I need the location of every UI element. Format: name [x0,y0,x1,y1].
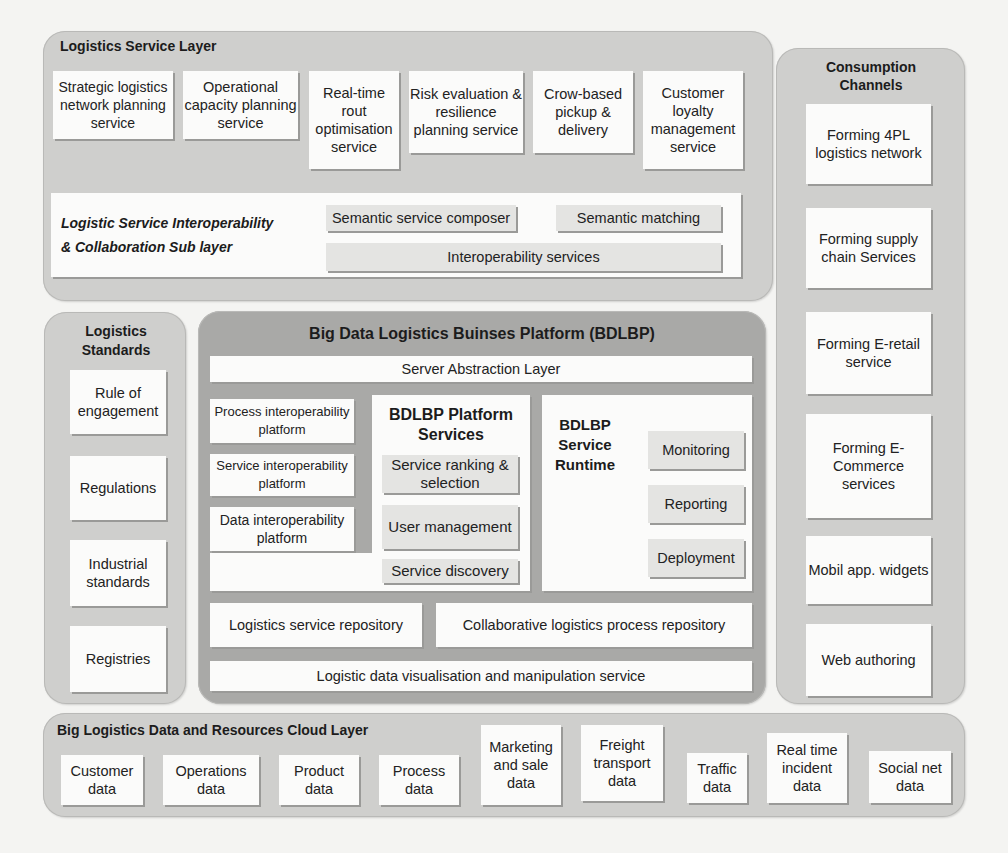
standard-regulations: Regulations [70,456,166,520]
data-social-net: Social net data [869,751,951,803]
service-layer-title: Logistics Service Layer [60,38,216,54]
interoperability-services: Interoperability services [326,243,721,271]
semantic-matching: Semantic matching [556,205,721,231]
data-product: Product data [279,755,359,805]
channel-supply-chain: Forming supply chain Services [806,208,931,288]
user-management: User management [382,505,518,549]
cloud-layer-title: Big Logistics Data and Resources Cloud L… [57,722,368,738]
logistics-service-layer: Logistics Service Layer Strategic logist… [43,31,773,301]
service-operational-capacity-planning: Operational capacity planning service [183,71,298,139]
consumption-channels-title: Consumption Channels [806,58,936,94]
bdlbp-platform-services: BDLBP Platform Services Service ranking … [210,395,530,591]
service-runtime-title: BDLBP Service Runtime [550,415,620,475]
runtime-reporting: Reporting [648,485,744,523]
service-strategic-network-planning: Strategic logistics network planning ser… [53,71,173,139]
service-discovery: Service discovery [382,559,518,583]
standard-registries: Registries [70,626,166,692]
server-abstraction-layer: Server Abstraction Layer [210,356,752,382]
service-ranking-selection: Service ranking & selection [382,455,518,493]
cloud-data-layer: Big Logistics Data and Resources Cloud L… [43,713,965,817]
consumption-channels-layer: Consumption Channels Forming 4PL logisti… [776,48,965,704]
service-customer-loyalty: Customer loyalty management service [643,71,743,169]
data-process: Process data [379,755,459,805]
data-customer: Customer data [61,755,143,805]
bdlbp-platform-layer: Big Data Logistics Buinses Platform (BDL… [198,311,766,704]
collaborative-process-repository: Collaborative logistics process reposito… [436,603,752,647]
interop-collab-sublayer: Logistic Service Interoperability & Coll… [51,193,741,277]
sublayer-title-line1: Logistic Service Interoperability [61,211,273,235]
data-visualisation-service: Logistic data visualisation and manipula… [210,661,752,691]
data-traffic: Traffic data [687,753,747,803]
bdlbp-service-runtime: BDLBP Service Runtime Monitoring Reporti… [542,395,752,591]
standard-rule-of-engagement: Rule of engagement [70,370,166,434]
runtime-deployment: Deployment [648,539,744,577]
service-risk-evaluation: Risk evaluation & resilience planning se… [409,71,523,153]
sublayer-title: Logistic Service Interoperability & Coll… [61,211,273,259]
channel-web-authoring: Web authoring [806,624,931,696]
platform-services-title: BDLBP Platform Services [382,405,520,445]
standards-title: Logistics Standards [66,322,166,360]
data-operations: Operations data [163,755,259,805]
logistics-standards-layer: Logistics Standards Rule of engagement R… [44,312,186,704]
standard-industrial: Industrial standards [70,540,166,606]
channel-4pl-network: Forming 4PL logistics network [806,104,931,184]
channel-mobile-widgets: Mobil app. widgets [806,536,931,604]
channel-e-retail: Forming E-retail service [806,312,931,394]
sublayer-title-line2: & Collaboration Sub layer [61,235,273,259]
runtime-monitoring: Monitoring [648,431,744,469]
service-crowd-pickup-delivery: Crow-based pickup & delivery [533,71,633,153]
service-realtime-route-optimisation: Real-time rout optimisation service [309,71,399,169]
semantic-service-composer: Semantic service composer [326,205,516,231]
platform-title: Big Data Logistics Buinses Platform (BDL… [198,325,766,343]
logistics-service-repository: Logistics service repository [210,603,422,647]
data-realtime-incident: Real time incident data [767,733,847,803]
data-marketing-sale: Marketing and sale data [481,725,561,805]
data-freight-transport: Freight transport data [581,725,663,801]
channel-e-commerce: Forming E-Commerce services [806,414,931,518]
